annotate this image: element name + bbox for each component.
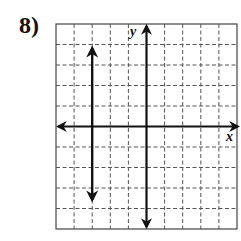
coordinate-grid bbox=[0, 0, 241, 241]
y-axis-label: y bbox=[130, 24, 136, 40]
x-axis-label: x bbox=[226, 129, 233, 145]
